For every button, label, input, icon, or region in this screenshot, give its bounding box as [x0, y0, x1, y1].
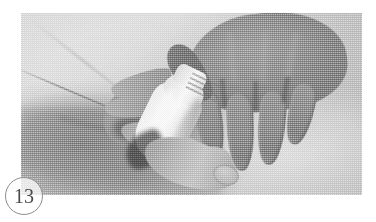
figure-number-badge: 13 — [5, 177, 43, 215]
figure-photograph — [21, 13, 362, 195]
print-grain-texture — [21, 13, 362, 195]
page-canvas: 13 — [0, 0, 376, 222]
figure-number-label: 13 — [14, 186, 34, 207]
